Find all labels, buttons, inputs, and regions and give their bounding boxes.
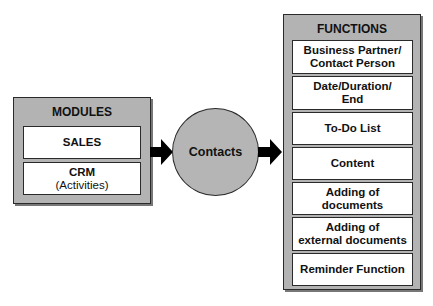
function-label: Adding of bbox=[326, 221, 380, 234]
arrow-right-icon bbox=[258, 139, 283, 165]
function-adding-external-documents: Adding of external documents bbox=[292, 217, 413, 251]
function-label: End bbox=[342, 93, 364, 106]
function-label: To-Do List bbox=[325, 122, 381, 135]
modules-panel: MODULES SALES CRM (Activities) bbox=[13, 97, 151, 204]
modules-title: MODULES bbox=[14, 105, 150, 119]
function-business-partner: Business Partner/ Contact Person bbox=[292, 40, 413, 74]
module-crm-label: CRM bbox=[69, 166, 95, 179]
functions-title: FUNCTIONS bbox=[284, 22, 420, 36]
module-crm: CRM (Activities) bbox=[23, 162, 141, 195]
function-content: Content bbox=[292, 147, 413, 180]
function-label: external documents bbox=[298, 234, 407, 247]
module-crm-sublabel: (Activities) bbox=[55, 179, 108, 192]
function-label: Adding of bbox=[326, 186, 380, 199]
function-label: Contact Person bbox=[310, 57, 395, 70]
function-label: Content bbox=[331, 157, 374, 170]
function-todo-list: To-Do List bbox=[292, 112, 413, 145]
function-label: Date/Duration/ bbox=[313, 80, 392, 93]
functions-panel: FUNCTIONS Business Partner/ Contact Pers… bbox=[283, 14, 421, 290]
arrow-right-icon bbox=[150, 139, 174, 165]
function-label: Business Partner/ bbox=[304, 44, 402, 57]
function-label: documents bbox=[322, 199, 383, 212]
function-adding-documents: Adding of documents bbox=[292, 182, 413, 215]
function-reminder: Reminder Function bbox=[292, 253, 413, 286]
contacts-node: Contacts bbox=[172, 108, 259, 196]
function-date-duration: Date/Duration/ End bbox=[292, 76, 413, 110]
contacts-label: Contacts bbox=[189, 145, 242, 159]
module-sales: SALES bbox=[23, 126, 141, 159]
module-sales-label: SALES bbox=[63, 136, 101, 149]
function-label: Reminder Function bbox=[300, 263, 405, 276]
